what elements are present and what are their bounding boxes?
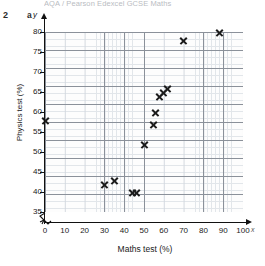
y-tick-mark (40, 132, 45, 133)
x-tick-label: 40 (114, 226, 134, 235)
x-axis-line (44, 222, 249, 223)
x-tick-label: 70 (174, 226, 194, 235)
y-tick-mark (40, 152, 45, 153)
x-tick-label: 30 (94, 226, 114, 235)
y-tick-mark (40, 52, 45, 53)
x-tick-label: 20 (75, 226, 95, 235)
y-axis-title: Physics test (%) (15, 58, 24, 168)
scatter-plot-grid (45, 32, 243, 212)
x-tick-label: 10 (55, 226, 75, 235)
y-tick-mark (40, 212, 45, 213)
x-tick-label: 90 (213, 226, 233, 235)
y-tick-label: 75 (18, 48, 42, 56)
y-tick-mark (40, 32, 45, 33)
y-tick-mark (40, 72, 45, 73)
y-tick-label: 80 (18, 28, 42, 36)
page-header-text: AQA / Pearson Edexcel GCSE Maths (44, 0, 244, 9)
y-tick-label: 45 (18, 168, 42, 176)
x-tick-label: 0 (35, 226, 55, 235)
x-tick-label: 60 (154, 226, 174, 235)
y-tick-mark (40, 172, 45, 173)
y-tick-mark (40, 112, 45, 113)
y-tick-label: 40 (18, 188, 42, 196)
x-tick-label: 100 (233, 226, 253, 235)
worksheet-page: AQA / Pearson Edexcel GCSE Maths 2 a y x… (0, 0, 265, 266)
x-tick-label: 80 (193, 226, 213, 235)
x-tick-label: 50 (134, 226, 154, 235)
x-axis-arrow-icon (246, 219, 252, 225)
grid-major (45, 32, 243, 212)
y-axis-line (44, 18, 45, 224)
y-tick-mark (40, 92, 45, 93)
y-tick-label: 35 (18, 208, 42, 216)
question-number: 2 (3, 10, 8, 20)
y-axis-arrow-icon (41, 13, 47, 19)
y-tick-mark (40, 192, 45, 193)
question-part-letter: a (27, 10, 32, 20)
x-axis-title: Maths test (%) (70, 244, 220, 254)
y-axis-letter: y (33, 10, 37, 19)
